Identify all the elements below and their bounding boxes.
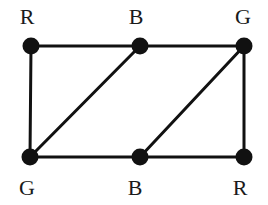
- vertex-color-label: B: [128, 177, 143, 199]
- vertex-color-label: B: [129, 6, 144, 28]
- graph-vertex-node[interactable]: [23, 38, 40, 55]
- graph-vertex-node[interactable]: [132, 149, 149, 166]
- vertex-color-label: G: [19, 177, 35, 199]
- graph-vertex-node[interactable]: [236, 149, 253, 166]
- graph-vertex-node[interactable]: [132, 38, 149, 55]
- edge-diagonal-bottom-middle-to-top-right: [140, 46, 244, 157]
- vertex-color-label: R: [233, 177, 248, 199]
- node-layer: [22, 38, 253, 166]
- vertex-color-label: G: [235, 6, 251, 28]
- graph-vertex-node[interactable]: [236, 38, 253, 55]
- vertex-color-label: R: [20, 6, 35, 28]
- graph-vertex-node[interactable]: [22, 149, 39, 166]
- edge-layer: [30, 46, 244, 157]
- edge-left-vertical: [30, 46, 31, 157]
- graph-diagram-canvas: RBGGBR: [0, 0, 268, 205]
- edge-diagonal-bottom-left-to-top-middle: [30, 46, 140, 157]
